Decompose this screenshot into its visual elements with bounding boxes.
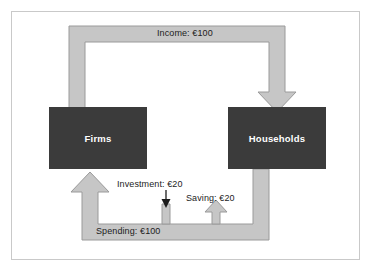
spending-flow-label: Spending: €100 [96,226,160,236]
node-households-label: Households [249,133,305,144]
node-firms[interactable]: Firms [49,107,147,169]
node-households[interactable]: Households [228,107,326,169]
income-flow-label: Income: €100 [157,28,213,38]
saving-flow-label: Saving: €20 [186,193,235,203]
saving-flow-arrow [205,200,227,224]
income-flow-arrow [69,26,296,120]
investment-flow-label: Investment: €20 [117,179,183,189]
diagram-canvas: Firms Households Income: €100 Investment… [0,0,373,273]
node-firms-label: Firms [85,133,112,144]
